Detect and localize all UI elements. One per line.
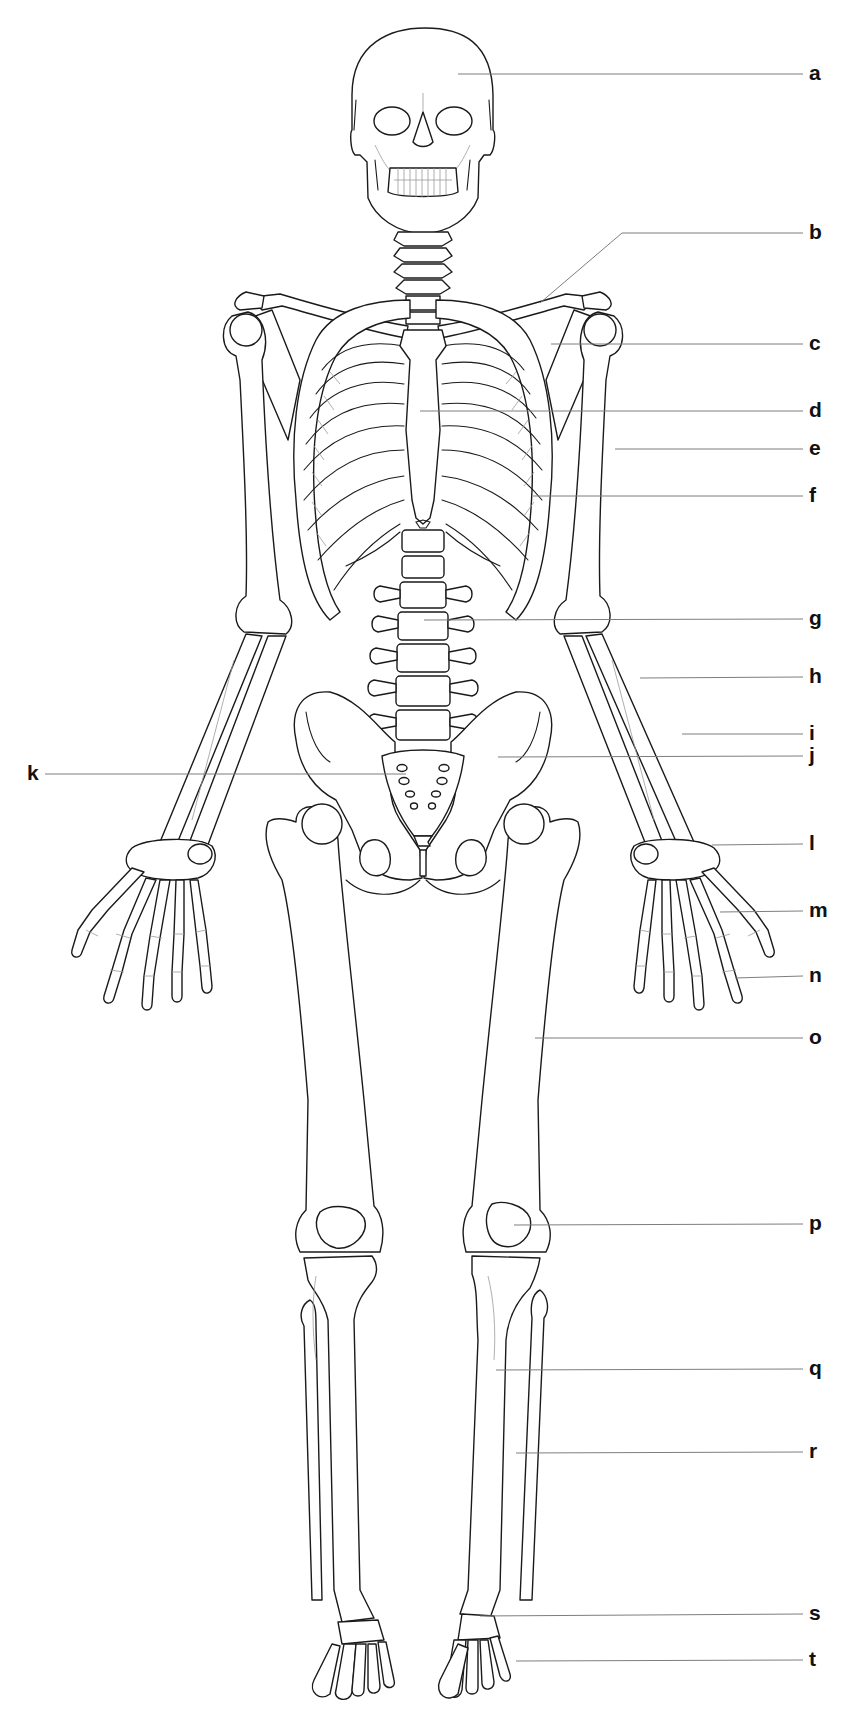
label-f: f <box>809 484 816 505</box>
label-h: h <box>809 665 822 686</box>
lumbar-spine <box>368 530 478 740</box>
leader-line-r <box>516 1452 803 1453</box>
leader-line-p <box>514 1224 803 1225</box>
label-t: t <box>809 1648 816 1669</box>
leader-line-h <box>640 677 803 678</box>
label-d: d <box>809 399 822 420</box>
label-e: e <box>809 437 821 458</box>
skull <box>351 28 495 234</box>
label-g: g <box>809 607 822 628</box>
label-l: l <box>809 832 815 853</box>
lower-legs <box>301 1256 547 1622</box>
leader-line-b <box>540 233 803 303</box>
hand-right <box>631 839 774 1010</box>
label-r: r <box>809 1440 817 1461</box>
leader-line-s <box>480 1614 803 1616</box>
label-p: p <box>809 1212 822 1233</box>
feet <box>312 1614 510 1699</box>
label-b: b <box>809 221 822 242</box>
label-n: n <box>809 964 822 985</box>
skeleton-illustration <box>0 0 849 1722</box>
leader-line-n <box>735 976 803 978</box>
label-j: j <box>809 744 815 765</box>
leader-line-m <box>720 911 803 912</box>
label-i: i <box>809 722 815 743</box>
label-a: a <box>809 62 821 83</box>
label-o: o <box>809 1026 822 1047</box>
leader-line-t <box>516 1660 803 1661</box>
hand-left <box>72 839 215 1010</box>
leader-line-g <box>424 619 803 620</box>
leader-line-l <box>712 844 803 845</box>
label-c: c <box>809 332 821 353</box>
label-s: s <box>809 1602 821 1623</box>
label-m: m <box>809 899 828 920</box>
label-q: q <box>809 1357 822 1378</box>
skeleton-diagram: abcdefghijklmnopqrst <box>0 0 849 1722</box>
label-k: k <box>27 762 39 783</box>
